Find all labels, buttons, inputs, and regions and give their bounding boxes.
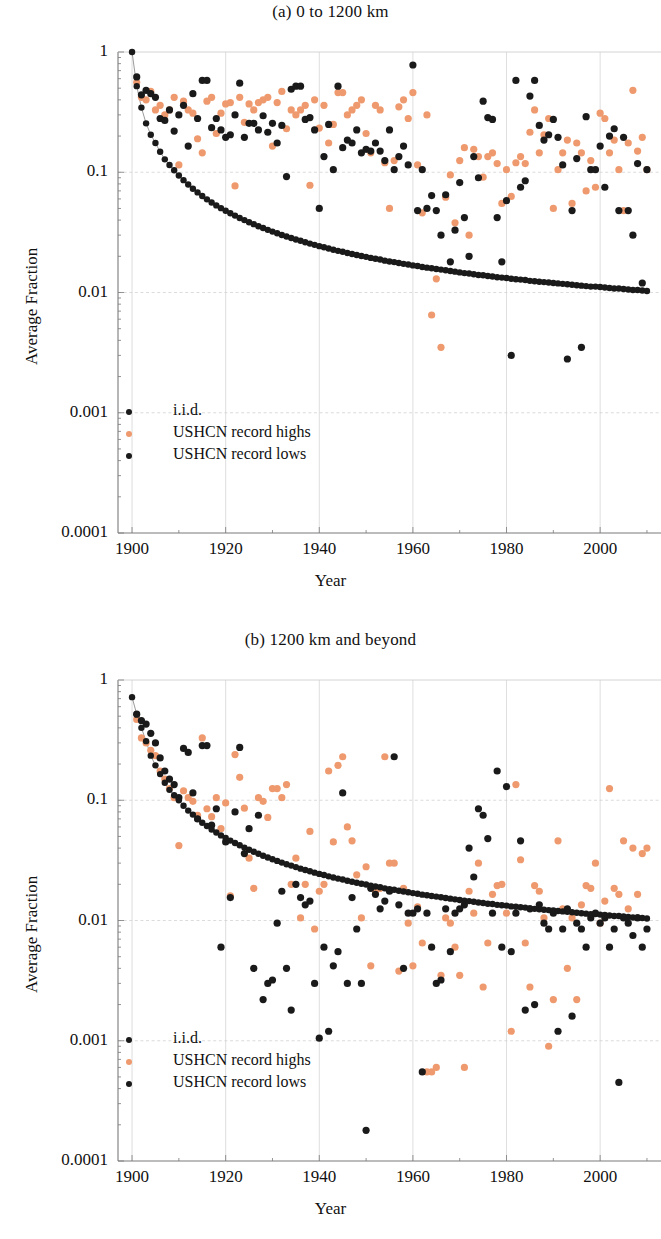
y-tick-label: 1: [0, 41, 108, 61]
x-tick-label: 2000: [560, 1167, 640, 1187]
panel-b-plot-area: [0, 620, 661, 1180]
legend-marker-dot-icon: [126, 1081, 132, 1087]
legend-label: i.i.d.: [173, 401, 202, 419]
legend-label: USHCN record lows: [173, 445, 306, 463]
x-tick-label: 1960: [373, 1167, 453, 1187]
y-tick-label: 0.01: [0, 910, 108, 930]
chart-panel-b: (b) 1200 km and beyond Average Fraction …: [0, 620, 661, 1239]
y-tick-label: 0.01: [0, 282, 108, 302]
panel-a-x-axis-label: Year: [0, 571, 661, 591]
x-tick-label: 1920: [186, 1167, 266, 1187]
panel-b-x-axis-label: Year: [0, 1199, 661, 1219]
y-tick-label: 0.001: [0, 1030, 108, 1050]
x-tick-label: 1920: [186, 539, 266, 559]
legend-marker-dot-icon: [126, 453, 132, 459]
legend-label: USHCN record highs: [173, 423, 311, 441]
y-tick-label: 1: [0, 669, 108, 689]
y-tick-label: 0.1: [0, 161, 108, 181]
x-tick-label: 2000: [560, 539, 640, 559]
panel-a-plot-area: [0, 0, 661, 560]
x-tick-label: 1900: [92, 539, 172, 559]
legend-marker-dot-icon: [126, 1059, 132, 1065]
legend-label: i.i.d.: [173, 1029, 202, 1047]
panel-b-y-axis-label: Average Fraction: [22, 875, 42, 992]
legend-label: USHCN record highs: [173, 1051, 311, 1069]
legend-marker-dot-icon: [126, 431, 132, 437]
panel-a-svg: [0, 0, 661, 560]
x-tick-label: 1980: [467, 1167, 547, 1187]
y-tick-label: 0.1: [0, 789, 108, 809]
legend-marker-dot-icon: [126, 409, 132, 415]
figure-root: (a) 0 to 1200 km Average Fraction Year 1…: [0, 0, 661, 1239]
panel-a-y-axis-label: Average Fraction: [22, 247, 42, 364]
panel-b-svg: [0, 620, 661, 1180]
x-tick-label: 1940: [279, 539, 359, 559]
x-tick-label: 1900: [92, 1167, 172, 1187]
x-tick-label: 1980: [467, 539, 547, 559]
chart-panel-a: (a) 0 to 1200 km Average Fraction Year 1…: [0, 0, 661, 620]
y-tick-label: 0.001: [0, 402, 108, 422]
x-tick-label: 1940: [279, 1167, 359, 1187]
x-tick-label: 1960: [373, 539, 453, 559]
legend-marker-dot-icon: [126, 1037, 132, 1043]
legend-label: USHCN record lows: [173, 1073, 306, 1091]
